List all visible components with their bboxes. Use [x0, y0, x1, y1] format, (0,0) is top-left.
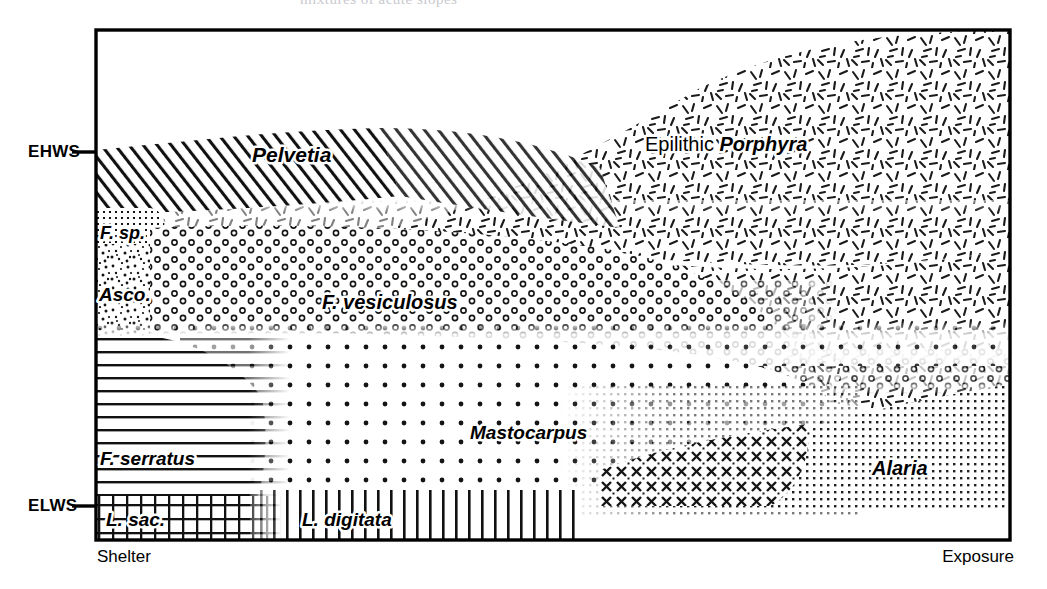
zonation-diagram [0, 0, 1047, 589]
axis-label-shelter: Shelter [97, 547, 151, 567]
zone-l-digitata [96, 30, 1010, 540]
axis-ticks [72, 152, 96, 506]
axis-label-exposure: Exposure [942, 547, 1014, 567]
axis-label-ehws: EHWS [28, 142, 80, 162]
axis-label-elws: ELWS [28, 496, 77, 516]
